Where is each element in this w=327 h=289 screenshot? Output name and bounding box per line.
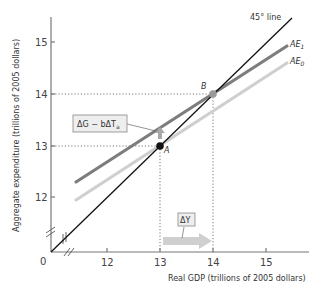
ae0-label-sub: 0 xyxy=(301,60,305,67)
shift-label-sub: a xyxy=(116,123,120,130)
line-45-label: 45° line xyxy=(250,13,281,22)
ae1-line xyxy=(76,46,287,182)
shift-label: ΔG − bΔT xyxy=(77,120,116,129)
x-tick-15: 15 xyxy=(260,257,273,268)
point-a xyxy=(156,142,164,150)
x-tick-12: 12 xyxy=(101,257,114,268)
point-a-label: A xyxy=(163,146,169,155)
svg-text:ΔG − bΔTa: ΔG − bΔTa xyxy=(77,120,120,130)
x-tick-14: 14 xyxy=(207,257,220,268)
ae1-label-sub: 1 xyxy=(301,43,305,50)
delta-y-leader xyxy=(182,227,184,238)
line-45 xyxy=(51,18,292,252)
svg-text:AE0: AE0 xyxy=(289,57,305,67)
y-tick-12: 12 xyxy=(35,192,48,203)
y-tick-13: 13 xyxy=(35,141,48,152)
x-tick-13: 13 xyxy=(154,257,167,268)
ae-chart: ΔG − bΔTa A B ΔY 45° line AE1 AE0 15 14 … xyxy=(0,0,327,289)
y-tick-15: 15 xyxy=(35,37,48,48)
svg-text:AE1: AE1 xyxy=(289,40,304,50)
point-b-label: B xyxy=(201,82,207,91)
delta-y-label: ΔY xyxy=(180,216,190,225)
origin-label: 0 xyxy=(40,256,46,267)
y-axis-title: Aggregate expenditure (trillions of 2005… xyxy=(12,39,21,232)
point-b xyxy=(209,90,217,98)
y-tick-14: 14 xyxy=(35,89,48,100)
x-axis-title: Real GDP (trillions of 2005 dollars) xyxy=(168,274,306,283)
shift-leader xyxy=(127,124,156,131)
delta-y-arrow-icon xyxy=(163,233,212,249)
